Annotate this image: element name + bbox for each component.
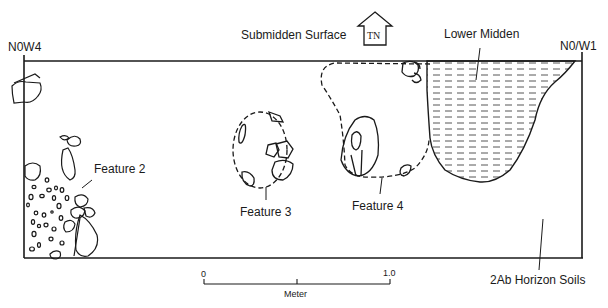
horizon-soils-label: 2Ab Horizon Soils	[490, 274, 585, 286]
scale-end-label: 1.0	[383, 269, 396, 278]
feature-3	[233, 112, 293, 200]
lower-midden-label: Lower Midden	[444, 28, 519, 40]
corner-label-northeast: N0/W1	[560, 40, 597, 52]
feature-4-label: Feature 4	[352, 200, 403, 212]
scale-bar	[204, 279, 390, 284]
feature-2-label: Feature 2	[94, 163, 145, 175]
plan-map-drawing	[0, 0, 608, 308]
north-arrow-label: TN	[367, 31, 380, 41]
lower-midden-area	[427, 48, 575, 182]
scale-start-label: 0	[201, 270, 206, 279]
corner-label-northwest: N0W4	[8, 41, 41, 53]
submidden-surface-label: Submidden Surface	[241, 29, 346, 41]
feature-3-label: Feature 3	[240, 206, 291, 218]
feature-4	[321, 61, 430, 194]
horizon-soils-leader	[539, 219, 543, 270]
feature-2	[12, 74, 98, 259]
feature-2-pebbles	[27, 178, 69, 251]
scale-unit-label: Meter	[284, 290, 307, 299]
